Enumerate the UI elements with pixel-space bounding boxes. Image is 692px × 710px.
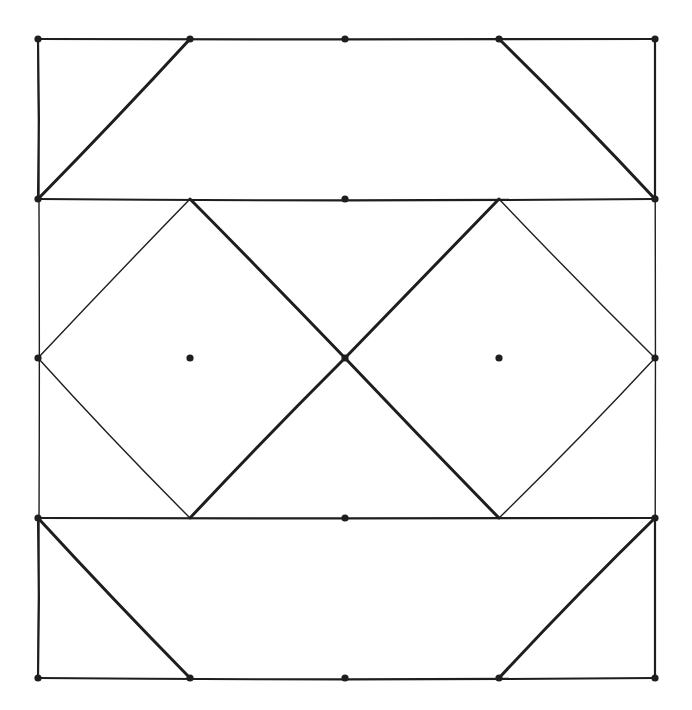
grid-dot [495, 674, 502, 681]
right-diamond-sw-line [345, 358, 499, 518]
grid-dot [651, 674, 658, 681]
grid-dot [495, 354, 502, 361]
grid-dot [34, 35, 41, 42]
top-left-diagonal-line [38, 39, 190, 199]
bottom-left-diagonal-line [38, 518, 190, 678]
grid-dot [341, 35, 348, 42]
bottom-right-diagonal-line [499, 518, 655, 678]
grid-dot [341, 674, 348, 681]
left-diamond-sw-line [38, 358, 190, 518]
grid-dot [341, 354, 348, 361]
grid-dot [651, 354, 658, 361]
top-band-left-line [38, 39, 39, 199]
grid-dot [34, 195, 41, 202]
grid-dot [186, 674, 193, 681]
grid-dot [186, 354, 193, 361]
grid-dot [34, 514, 41, 521]
bottom-band-left-line [38, 518, 39, 678]
left-diamond-nw-line [38, 199, 190, 358]
right-diamond-ne-line [499, 199, 655, 358]
right-diamond-se-line [499, 358, 655, 518]
top-right-diagonal-line [499, 39, 655, 199]
grid-dot [651, 514, 658, 521]
dot-layer [34, 35, 658, 681]
grid-dot [341, 195, 348, 202]
grid-dot [651, 195, 658, 202]
left-diamond-se-line [190, 358, 345, 518]
grid-dot [651, 35, 658, 42]
grid-dot [341, 514, 348, 521]
quilt-diagram [0, 0, 692, 710]
grid-dot [34, 674, 41, 681]
grid-dot [186, 35, 193, 42]
right-diamond-nw-line [345, 199, 499, 358]
grid-dot [495, 35, 502, 42]
grid-dot [34, 354, 41, 361]
left-diamond-ne-line [190, 199, 345, 358]
